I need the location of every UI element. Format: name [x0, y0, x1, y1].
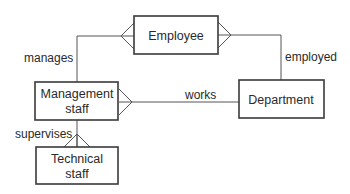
entity-employee: Employee — [134, 16, 218, 54]
entity-department-label: Department — [248, 93, 314, 107]
er-diagram: Employee Management staff Department Tec… — [0, 0, 350, 194]
entity-employee-label: Employee — [148, 29, 204, 43]
crows-foot-management-right-icon — [119, 89, 132, 115]
entity-technical-staff-label-line2: staff — [65, 167, 89, 181]
crows-foot-employee-left-icon — [121, 23, 134, 49]
crows-foot-employee-right-icon — [218, 22, 231, 48]
relationship-line-employed — [231, 35, 281, 80]
entity-management-staff-label-line1: Management — [41, 87, 114, 101]
entity-department: Department — [239, 80, 324, 118]
relationship-line-manages — [77, 36, 121, 82]
entity-technical-staff: Technical staff — [36, 147, 118, 184]
relationship-label-works: works — [184, 88, 216, 102]
relationship-label-supervises: supervises — [15, 127, 72, 141]
relationship-label-employed: employed — [285, 50, 337, 64]
entity-management-staff-label-line2: staff — [65, 102, 89, 116]
relationship-label-manages: manages — [24, 51, 73, 65]
entity-technical-staff-label-line1: Technical — [51, 152, 103, 166]
entity-management-staff: Management staff — [35, 82, 118, 120]
